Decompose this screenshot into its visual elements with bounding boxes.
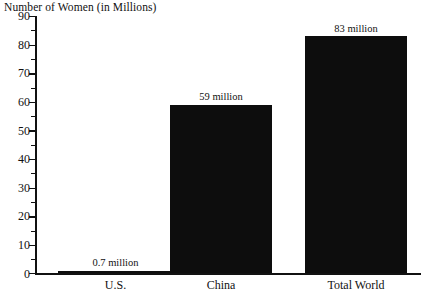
x-cat-label-total-world: Total World <box>305 279 407 292</box>
y-minor-tick-55 <box>31 116 35 117</box>
x-axis-line <box>35 273 421 275</box>
bar-value-label-china: 59 million <box>170 91 272 102</box>
y-minor-tick-85 <box>31 30 35 31</box>
x-cat-label-us: U.S. <box>58 279 173 292</box>
y-major-tick-10 <box>29 245 35 246</box>
y-major-tick-90 <box>29 16 35 17</box>
y-axis-line <box>35 16 37 275</box>
y-major-tick-50 <box>29 130 35 131</box>
x-axis-category-labels: U.S. China Total World <box>35 279 421 297</box>
y-major-tick-70 <box>29 73 35 74</box>
y-major-tick-20 <box>29 216 35 217</box>
bar-china[interactable] <box>170 105 272 273</box>
y-major-tick-60 <box>29 102 35 103</box>
bar-value-label-total-world: 83 million <box>305 23 407 34</box>
y-minor-tick-65 <box>31 88 35 89</box>
y-axis-tick-labels: 90 80 70 60 50 40 30 20 10 0 <box>0 16 30 275</box>
y-minor-tick-25 <box>31 202 35 203</box>
y-minor-tick-35 <box>31 173 35 174</box>
y-major-tick-80 <box>29 45 35 46</box>
y-major-tick-0 <box>29 273 35 274</box>
plot-area: 0.7 million 59 million 83 million <box>35 16 421 275</box>
y-major-tick-30 <box>29 188 35 189</box>
bar-value-label-us: 0.7 million <box>58 257 173 268</box>
y-major-tick-40 <box>29 159 35 160</box>
bar-us[interactable] <box>58 271 173 273</box>
bar-chart: Number of Women (in Millions) 90 80 70 6… <box>0 0 421 299</box>
x-cat-label-china: China <box>170 279 272 292</box>
y-minor-tick-15 <box>31 231 35 232</box>
y-minor-tick-45 <box>31 145 35 146</box>
y-minor-tick-5 <box>31 259 35 260</box>
y-minor-tick-75 <box>31 59 35 60</box>
bar-total-world[interactable] <box>305 36 407 273</box>
